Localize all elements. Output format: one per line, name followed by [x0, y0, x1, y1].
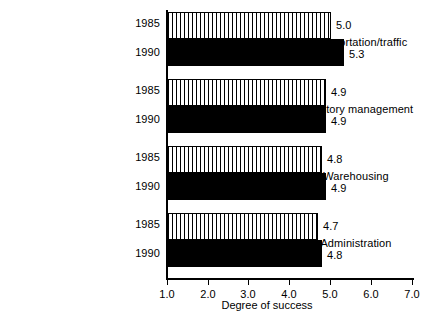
x-tick-2 — [248, 280, 249, 285]
x-axis-line — [166, 278, 414, 280]
year-label-1-1990: 1990 — [124, 113, 160, 125]
x-tick-4 — [330, 280, 331, 285]
year-label-3-1990: 1990 — [124, 247, 160, 259]
bar-chart: Transportation/traffic Inventory managem… — [0, 0, 432, 320]
bar-1990-administration — [167, 240, 322, 267]
x-tick-1 — [208, 280, 209, 285]
x-axis-title-text: Degree of success — [221, 299, 312, 311]
year-label-2-1990: 1990 — [124, 180, 160, 192]
bar-1990-inventory — [167, 106, 326, 133]
value-label-1985-administration: 4.7 — [323, 220, 339, 232]
year-label-0-1985: 1985 — [124, 17, 160, 29]
value-label-1985-inventory: 4.9 — [331, 86, 347, 98]
value-label-1985-warehousing: 4.8 — [327, 153, 343, 165]
bar-1985-administration — [167, 213, 318, 240]
year-label-1-1985: 1985 — [124, 84, 160, 96]
year-label-0-1990: 1990 — [124, 46, 160, 58]
x-tick-0 — [167, 280, 168, 285]
bar-1990-warehousing — [167, 173, 326, 200]
year-label-2-1985: 1985 — [124, 151, 160, 163]
value-label-1985-transportation: 5.0 — [336, 19, 352, 31]
bar-1985-warehousing — [167, 146, 322, 173]
value-label-1990-warehousing: 4.9 — [331, 182, 347, 194]
year-label-3-1985: 1985 — [124, 218, 160, 230]
value-label-1990-administration: 4.8 — [327, 249, 343, 261]
value-label-1990-transportation: 5.3 — [349, 48, 365, 60]
value-label-1990-inventory: 4.9 — [331, 115, 347, 127]
bar-1990-transportation — [167, 39, 344, 66]
x-axis-title: Degree of success — [0, 299, 432, 312]
bar-1985-transportation — [167, 12, 331, 39]
x-tick-5 — [371, 280, 372, 285]
x-tick-3 — [289, 280, 290, 285]
x-tick-6 — [412, 280, 413, 285]
bar-1985-inventory — [167, 79, 326, 106]
